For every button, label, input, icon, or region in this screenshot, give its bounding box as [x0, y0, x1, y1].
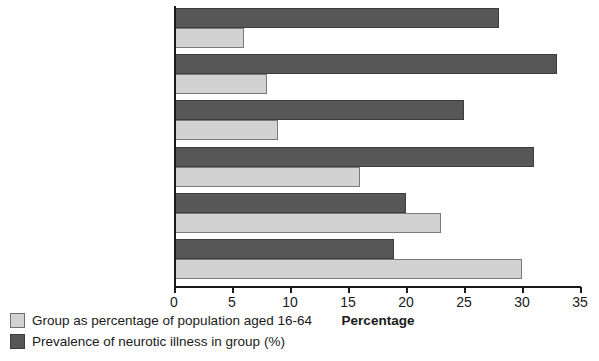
bar-prevalence: [174, 239, 394, 259]
legend-label: Prevalence of neurotic illness in group …: [32, 334, 285, 350]
bar-chart-figure: Lone parent2+ physical illnessesUnemploy…: [0, 0, 599, 361]
bar-population-share: [174, 28, 244, 48]
legend-label: Group as percentage of population aged 1…: [32, 313, 312, 329]
bar-population-share: [174, 167, 360, 187]
x-axis-tick-label: 0: [170, 294, 178, 310]
x-axis-tick: [348, 287, 350, 293]
x-axis-tick-label: 20: [398, 294, 414, 310]
bar-population-share: [174, 120, 278, 140]
x-axis-title: Percentage: [342, 313, 415, 328]
x-axis-tick-label: 10: [282, 294, 298, 310]
x-axis-tick: [464, 287, 466, 293]
bar-prevalence: [174, 147, 534, 167]
legend-item: Prevalence of neurotic illness in group …: [10, 331, 312, 352]
x-axis-tick: [580, 287, 582, 293]
legend-swatch-light-icon: [10, 313, 25, 328]
x-axis-tick: [522, 287, 524, 293]
chart-legend: Group as percentage of population aged 1…: [10, 310, 312, 352]
legend-swatch-dark-icon: [10, 334, 25, 349]
x-axis-tick: [406, 287, 408, 293]
x-axis-tick: [290, 287, 292, 293]
bar-population-share: [174, 213, 441, 233]
bar-prevalence: [174, 100, 464, 120]
bar-prevalence: [174, 8, 499, 28]
x-axis-tick-label: 35: [572, 294, 588, 310]
bar-population-share: [174, 259, 522, 279]
x-axis-tick-label: 25: [456, 294, 472, 310]
legend-item: Group as percentage of population aged 1…: [10, 310, 312, 331]
x-axis-tick: [174, 287, 176, 293]
x-axis-tick: [232, 287, 234, 293]
bar-population-share: [174, 74, 267, 94]
bar-prevalence: [174, 54, 557, 74]
bar-prevalence: [174, 193, 406, 213]
x-axis-tick-label: 15: [340, 294, 356, 310]
x-axis-tick-label: 30: [514, 294, 530, 310]
x-axis-line: [174, 286, 581, 288]
x-axis-tick-label: 5: [228, 294, 236, 310]
y-axis-line: [174, 6, 176, 287]
